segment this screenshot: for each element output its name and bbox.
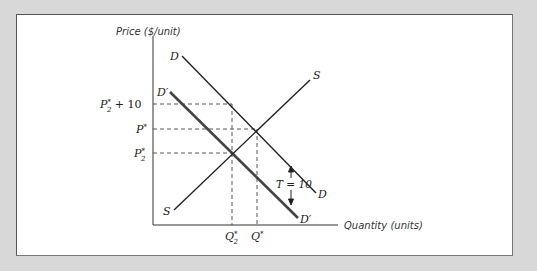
x-axis-label: Quantity (units) — [344, 220, 423, 231]
demand-label-end: D — [317, 188, 327, 201]
shifted-demand-label-top: D′ — [156, 86, 169, 99]
arrow-down-icon — [289, 199, 294, 205]
arrow-up-icon — [289, 166, 294, 172]
price-label-p2-plus-10: P*2 + 10 — [99, 98, 142, 114]
supply-curve — [174, 80, 310, 210]
quantity-label-q2-star: Q*2 — [225, 230, 239, 246]
tax-label: T = 10 — [276, 178, 312, 190]
supply-label-top: S — [313, 69, 321, 82]
shifted-demand-label-end: D′ — [299, 213, 312, 226]
price-label-p2-star: P*2 — [133, 147, 146, 163]
supply-label-bottom: S — [163, 205, 171, 218]
price-label-p-star: P* — [135, 123, 147, 136]
quantity-label-q-star: Q* — [251, 230, 264, 243]
y-axis-label: Price ($/unit) — [116, 26, 181, 37]
tax-incidence-diagram: Price ($/unit) Quantity (units) D D D′ D… — [0, 0, 537, 271]
demand-label-top: D — [169, 50, 179, 63]
